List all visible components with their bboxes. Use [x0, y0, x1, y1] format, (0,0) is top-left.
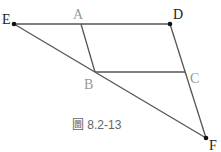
point-label-b: B — [84, 77, 93, 92]
point-label-c: C — [190, 71, 199, 86]
diagram-canvas: EADBCF 圖 8.2-13 — [0, 0, 221, 152]
point-d-dot — [168, 22, 173, 27]
point-label-a: A — [73, 7, 84, 22]
point-label-f: F — [209, 138, 217, 152]
point-label-d: D — [173, 7, 183, 22]
geometry-figure: EADBCF 圖 8.2-13 — [0, 0, 221, 152]
figure-caption: 圖 8.2-13 — [72, 118, 122, 132]
segment-df — [170, 24, 206, 138]
point-e-dot — [12, 22, 17, 27]
point-f-dot — [204, 136, 209, 141]
point-label-e: E — [2, 12, 11, 27]
